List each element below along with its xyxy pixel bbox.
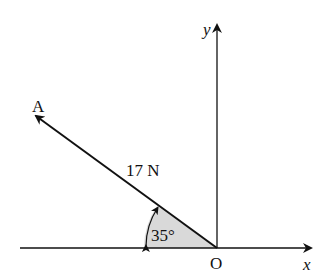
force-vector <box>36 116 217 248</box>
force-magnitude-label: 17 N <box>126 161 160 180</box>
force-diagram: A 17 N 35° O x y <box>0 0 330 280</box>
x-axis-label: x <box>302 255 311 274</box>
origin-label: O <box>210 254 222 273</box>
angle-label: 35° <box>151 226 175 245</box>
point-a-label: A <box>32 97 45 116</box>
y-axis-label: y <box>201 20 211 39</box>
